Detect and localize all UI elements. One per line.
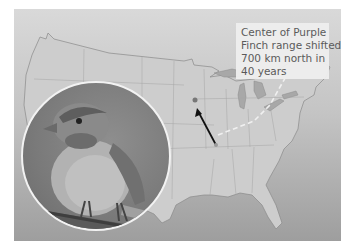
- finch-illustration: [23, 83, 171, 231]
- figure-frame: Center of Purple Finch range shifted 700…: [14, 9, 341, 241]
- range-center-start: [214, 143, 218, 147]
- callout-box: Center of Purple Finch range shifted 700…: [236, 23, 329, 79]
- callout-line-2: Finch range shifted: [241, 39, 324, 52]
- eye-icon: [76, 118, 82, 124]
- callout-line-3: 700 km north in: [241, 52, 324, 65]
- callout-line-1: Center of Purple: [241, 26, 324, 39]
- purple-finch-photo: [21, 81, 171, 231]
- range-center-end: [193, 98, 198, 103]
- callout-line-4: 40 years: [241, 65, 324, 78]
